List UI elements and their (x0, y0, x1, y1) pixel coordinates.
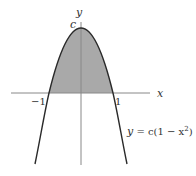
tick-pos-one: 1 (115, 96, 121, 107)
parabola-diagram: y c x −1 1 y = c(1 − x2) (0, 0, 196, 176)
x-axis-label: x (157, 87, 164, 100)
y-axis-label: y (75, 6, 83, 19)
tick-neg-one: −1 (31, 96, 46, 107)
equation-label: y = c(1 − x2) (126, 125, 193, 138)
peak-label: c (70, 18, 76, 31)
